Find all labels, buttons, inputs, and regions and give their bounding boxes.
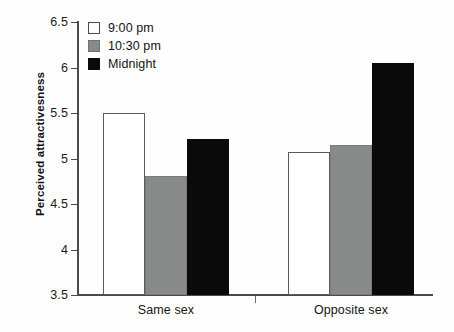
bar-opposite-sex-10-30-pm xyxy=(330,145,372,295)
x-axis-label-opposite-sex: Opposite sex xyxy=(291,303,411,317)
gray-swatch-icon xyxy=(88,40,100,52)
legend-label-midnight: Midnight xyxy=(108,58,156,71)
y-axis-tick-label: 5 xyxy=(30,153,68,165)
y-axis-tick-label: 3.5 xyxy=(30,289,68,301)
y-axis-tick-label-text: 4.5 xyxy=(50,198,68,211)
white-swatch-icon xyxy=(88,22,100,34)
legend-item-midnight: Midnight xyxy=(88,56,161,72)
y-axis-tick xyxy=(71,250,78,251)
legend-item-1030pm: 10:30 pm xyxy=(88,38,161,54)
chart-legend: 9:00 pm 10:30 pm Midnight xyxy=(88,20,161,74)
y-axis-tick xyxy=(71,113,78,114)
bar-chart-figure: Perceived attractivesness 6.565.554.543.… xyxy=(0,0,454,332)
legend-label-900pm: 9:00 pm xyxy=(108,22,154,35)
y-axis-tick-label-text: 5.5 xyxy=(50,107,68,120)
y-axis-tick-label-text: 5 xyxy=(61,153,68,166)
bar-opposite-sex-midnight xyxy=(372,63,414,295)
bar-opposite-sex-9-00-pm xyxy=(288,152,330,295)
y-axis-tick-label-text: 6.5 xyxy=(50,16,68,29)
bar-same-sex-midnight xyxy=(187,139,229,295)
y-axis-tick-label: 6.5 xyxy=(30,16,68,28)
y-axis-tick xyxy=(71,159,78,160)
bar-same-sex-9-00-pm xyxy=(103,113,145,295)
legend-item-900pm: 9:00 pm xyxy=(88,20,161,36)
y-axis-tick-label-text: 3.5 xyxy=(50,289,68,302)
x-axis-center-tick xyxy=(255,296,256,303)
y-axis-tick-label-text: 6 xyxy=(61,62,68,75)
y-axis-tick-label: 4.5 xyxy=(30,198,68,210)
y-axis-tick-label: 4 xyxy=(30,244,68,256)
y-axis-tick xyxy=(71,68,78,69)
y-axis-tick-label: 6 xyxy=(30,62,68,74)
y-axis-tick-label-text: 4 xyxy=(61,244,68,257)
bar-same-sex-10-30-pm xyxy=(145,176,187,295)
x-axis-label-same-sex: Same sex xyxy=(106,303,226,317)
y-axis-tick xyxy=(71,22,78,23)
black-swatch-icon xyxy=(88,58,100,70)
y-axis-tick xyxy=(71,295,78,296)
y-axis-tick-label: 5.5 xyxy=(30,107,68,119)
legend-label-1030pm: 10:30 pm xyxy=(108,40,161,53)
y-axis-tick xyxy=(71,204,78,205)
